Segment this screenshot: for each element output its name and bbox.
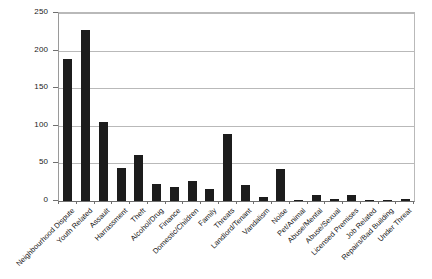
- x-axis-tick-mark: [182, 201, 183, 204]
- bar: [134, 155, 143, 201]
- x-axis-tick-mark: [165, 201, 166, 204]
- bar: [241, 185, 250, 201]
- y-axis-tick-label: 200: [0, 45, 48, 54]
- bar: [81, 30, 90, 201]
- x-axis-tick-mark: [289, 201, 290, 204]
- y-axis-tick-label: 150: [0, 82, 48, 91]
- bar: [63, 59, 72, 201]
- x-axis-tick-mark: [76, 201, 77, 204]
- x-axis-tick-mark: [324, 201, 325, 204]
- bar: [170, 187, 179, 201]
- x-axis-tick-mark: [218, 201, 219, 204]
- y-axis-tick-label: 0: [0, 195, 48, 204]
- x-axis-tick-mark: [94, 201, 95, 204]
- bar: [152, 184, 161, 201]
- x-axis-tick-mark: [236, 201, 237, 204]
- bars-layer: [59, 13, 414, 201]
- bar-chart: 050100150200250 Neighbourhood DisputeYou…: [0, 0, 432, 279]
- x-axis-tick-mark: [307, 201, 308, 204]
- x-axis-tick-mark: [360, 201, 361, 204]
- x-axis-tick-mark: [413, 201, 414, 204]
- bar: [117, 168, 126, 201]
- x-axis-tick-mark: [395, 201, 396, 204]
- x-axis-tick-mark: [378, 201, 379, 204]
- y-axis-tick-label: 250: [0, 7, 48, 16]
- bar: [276, 169, 285, 201]
- y-axis-tick-label: 50: [0, 157, 48, 166]
- x-axis-tick-mark: [129, 201, 130, 204]
- bar: [188, 181, 197, 201]
- x-axis-tick-mark: [271, 201, 272, 204]
- x-axis-tick-mark: [111, 201, 112, 204]
- bar: [223, 134, 232, 201]
- y-axis-tick-label: 100: [0, 120, 48, 129]
- x-axis-tick-mark: [58, 201, 59, 204]
- x-axis-ticks: [58, 201, 415, 205]
- x-axis-tick-mark: [342, 201, 343, 204]
- plot-area: [58, 12, 415, 202]
- bar: [99, 122, 108, 201]
- x-axis-tick-mark: [200, 201, 201, 204]
- x-axis-tick-mark: [147, 201, 148, 204]
- bar: [205, 189, 214, 201]
- x-axis-tick-mark: [253, 201, 254, 204]
